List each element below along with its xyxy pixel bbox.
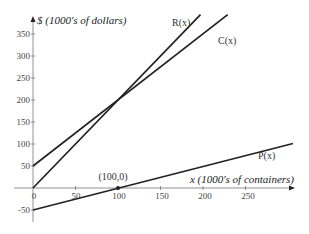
y-tick-label: 250 <box>17 73 31 83</box>
y-tick-label: -50 <box>18 205 30 215</box>
x-axis-arrow-icon <box>289 186 295 191</box>
y-tick-label: 50 <box>21 161 31 171</box>
y-tick-label: 200 <box>17 95 31 105</box>
x-tick-label: 0 <box>32 191 37 201</box>
y-axis-title: $ (1000's of dollars) <box>37 14 127 27</box>
break-even-point-label: (100,0) <box>98 171 127 183</box>
x-tick-label: 250 <box>241 191 255 201</box>
break-even-point-marker <box>116 186 120 190</box>
x-tick-label: 200 <box>198 191 212 201</box>
y-tick-label: 100 <box>17 139 31 149</box>
y-tick-label: 150 <box>17 117 31 127</box>
series-r-label: R(x) <box>172 17 190 29</box>
series-c-label: C(x) <box>218 35 236 47</box>
y-axis-arrow-icon <box>31 16 36 22</box>
y-tick-label: 300 <box>17 51 31 61</box>
x-axis <box>14 186 295 191</box>
series-c-line <box>33 15 228 166</box>
x-tick-label: 150 <box>155 191 169 201</box>
x-axis-title: x (1000's of containers) <box>189 173 294 186</box>
break-even-chart: 0 50 100 150 200 250 350 300 250 200 150… <box>0 0 309 234</box>
x-tick-label: 100 <box>112 191 126 201</box>
y-tick-label: 350 <box>17 29 31 39</box>
series-p-label: P(x) <box>258 150 275 162</box>
